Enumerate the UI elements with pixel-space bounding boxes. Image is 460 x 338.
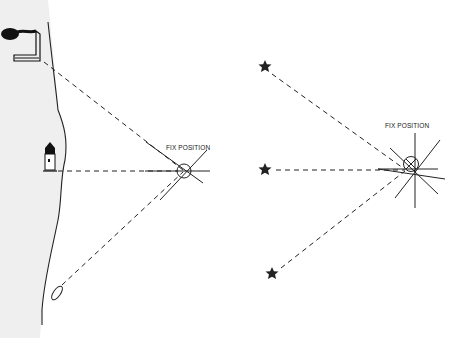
land-area (0, 0, 66, 338)
stars (259, 60, 279, 279)
star-icon (266, 267, 279, 279)
left-bearing-lines (44, 62, 183, 285)
right-fix-label: FIX POSITION (385, 122, 429, 129)
star-icon (259, 60, 272, 72)
right-bearing-lines (272, 74, 405, 268)
rock-icon (50, 284, 65, 301)
star-icon (259, 163, 272, 175)
diagram-canvas: FIX POSITION FIX POSITION (0, 0, 460, 338)
right-fix-mark (378, 133, 445, 208)
diagram-svg (0, 0, 460, 338)
left-fix-label: FIX POSITION (166, 144, 210, 151)
